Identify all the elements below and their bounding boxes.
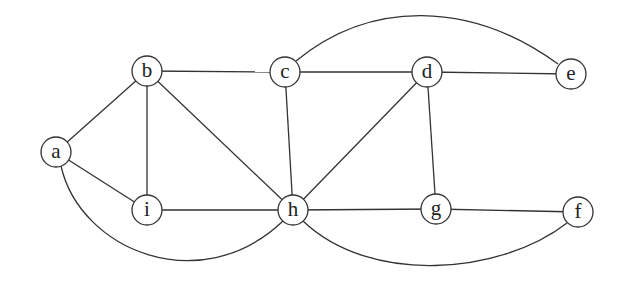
node-label: e [566,61,575,85]
node-label: i [144,197,150,221]
edges-layer [56,16,578,266]
node-h: h [278,195,308,225]
node-d: d [412,57,442,87]
edge-d-h [293,72,427,210]
edge-a-b [56,71,147,152]
edge-d-g [427,72,436,209]
edge-h-f [303,221,567,266]
node-label: g [431,196,442,220]
node-b: b [132,56,162,86]
edge-d-e [427,72,571,74]
edge-b-h [147,71,293,210]
node-f: f [563,197,593,227]
node-label: d [422,59,433,83]
node-label: b [142,58,153,82]
node-label: h [288,197,299,221]
node-label: f [575,199,582,223]
nodes-layer: abcdefghi [41,56,593,227]
node-c: c [270,57,300,87]
node-label: a [51,139,61,163]
edge-a-h [61,166,283,261]
graph-diagram: abcdefghi [0,0,625,284]
node-a: a [41,137,71,167]
edge-c-h [285,72,293,210]
node-i: i [132,195,162,225]
edge-b-c [147,71,285,72]
edge-g-f [436,209,578,212]
node-e: e [556,59,586,89]
node-label: c [280,59,289,83]
edge-h-g [293,209,436,210]
edge-a-i [56,152,147,210]
node-g: g [421,194,451,224]
